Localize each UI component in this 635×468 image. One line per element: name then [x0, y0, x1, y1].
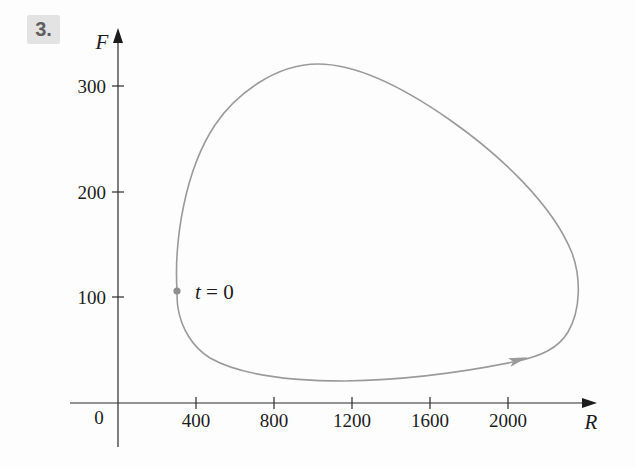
phase-plot: F R 0 400 800 1200 1600 2000 100 200 300… [0, 0, 635, 468]
x-axis-label: R [584, 410, 598, 434]
y-tick-label-200: 200 [78, 182, 107, 203]
x-axis-arrowhead [582, 398, 597, 408]
y-axis-arrowhead [113, 28, 123, 43]
origin-label: 0 [94, 407, 104, 428]
start-point-label-eq: = 0 [201, 280, 234, 304]
x-tick-label-1600: 1600 [411, 410, 449, 431]
y-tick-label-300: 300 [78, 76, 107, 97]
start-point-dot [173, 287, 180, 294]
textbook-figure-page: 3. F R 0 400 800 1200 1600 2000 100 20 [0, 0, 635, 468]
x-tick-label-2000: 2000 [489, 410, 527, 431]
svg-text:t = 0: t = 0 [195, 280, 234, 304]
x-tick-label-800: 800 [260, 410, 289, 431]
x-tick-label-400: 400 [182, 410, 211, 431]
orbit-curve [177, 64, 579, 381]
x-tick-label-1200: 1200 [333, 410, 371, 431]
y-tick-label-100: 100 [78, 287, 107, 308]
y-axis-label: F [95, 30, 109, 54]
